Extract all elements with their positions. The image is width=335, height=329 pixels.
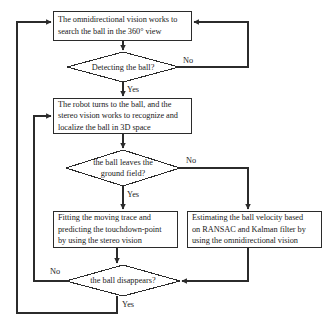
detecting-ball-decision: Detecting the ball? bbox=[67, 52, 179, 82]
flowchart-canvas: The omnidirectional vision works tosearc… bbox=[0, 0, 335, 329]
ball-leaves-ground-decision-text: the ball leaves theground field? bbox=[93, 157, 153, 179]
estimating-velocity-box-text: Estimating the ball velocity basedon RAN… bbox=[192, 212, 318, 247]
ball-disappears-decision-text: the ball disappears? bbox=[90, 275, 155, 286]
edge-label-d1-yes: Yes bbox=[127, 85, 139, 94]
edge-label-d3-no: No bbox=[50, 267, 60, 276]
detecting-ball-decision-text: Detecting the ball? bbox=[92, 62, 155, 73]
fitting-trace-box: Fitting the moving trace andpredicting t… bbox=[53, 211, 178, 248]
omnidirectional-search-box-text: The omnidirectional vision works tosearc… bbox=[58, 14, 188, 37]
edge-label-d3-yes: Yes bbox=[122, 300, 134, 309]
robot-turns-stereo-box-text: The robot turns to the ball, and thester… bbox=[58, 99, 188, 134]
edge-d3-no-to-n2 bbox=[34, 116, 66, 281]
robot-turns-stereo-box: The robot turns to the ball, and thester… bbox=[53, 98, 192, 134]
edge-d2-no-to-n4 bbox=[180, 168, 248, 209]
edge-n4-to-d3 bbox=[182, 248, 248, 281]
edge-label-d1-no: No bbox=[183, 56, 193, 65]
edge-label-d2-yes: Yes bbox=[127, 190, 139, 199]
omnidirectional-search-box: The omnidirectional vision works tosearc… bbox=[53, 11, 192, 41]
ball-leaves-ground-decision: the ball leaves theground field? bbox=[66, 150, 180, 186]
ball-disappears-decision: the ball disappears? bbox=[66, 265, 180, 296]
fitting-trace-box-text: Fitting the moving trace andpredicting t… bbox=[58, 212, 174, 247]
estimating-velocity-box: Estimating the ball velocity basedon RAN… bbox=[187, 211, 322, 248]
edge-label-d2-no: No bbox=[186, 156, 196, 165]
